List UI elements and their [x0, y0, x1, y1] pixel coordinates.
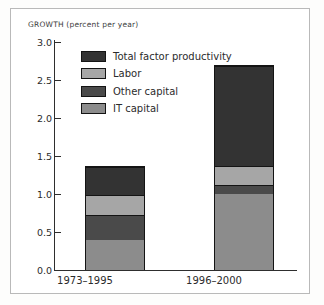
y-axis-tick-label: 1.0	[6, 189, 52, 200]
legend-swatch-icon	[81, 68, 106, 79]
bar-segment[interactable]	[215, 166, 273, 184]
legend-item-label: IT capital	[113, 103, 159, 114]
bar-segment[interactable]	[86, 240, 144, 270]
bar-segment[interactable]	[215, 185, 273, 195]
x-axis-label-category-0: 1973–1995	[25, 275, 145, 286]
x-axis-label-category-1: 1996–2000	[154, 275, 274, 286]
legend-swatch-icon	[81, 103, 106, 114]
y-axis-tick-label: 3.0	[6, 37, 52, 48]
y-axis-tick-label: 2.5	[6, 75, 52, 86]
legend: Total factor productivityLaborOther capi…	[81, 48, 261, 118]
bar-segment[interactable]	[86, 215, 144, 240]
y-axis-tick-label: 0.5	[6, 227, 52, 238]
legend-item[interactable]: Other capital	[81, 83, 261, 99]
y-axis-tick-label: 0.0	[6, 265, 52, 276]
legend-item-label: Labor	[113, 68, 141, 79]
bar-segment[interactable]	[215, 194, 273, 270]
legend-item-label: Other capital	[113, 86, 178, 97]
y-axis-tick-label: 2.0	[6, 113, 52, 124]
figure-container: GROWTH (percent per year) 0.00.51.01.52.…	[0, 0, 324, 305]
legend-item[interactable]: Total factor productivity	[81, 48, 261, 64]
legend-swatch-icon	[81, 86, 106, 97]
y-axis-tick-labels: 0.00.51.01.52.02.53.0	[0, 0, 52, 305]
legend-item[interactable]: Labor	[81, 66, 261, 82]
legend-item-label: Total factor productivity	[113, 51, 232, 62]
legend-item[interactable]: IT capital	[81, 101, 261, 117]
bar-segment[interactable]	[86, 167, 144, 195]
bar-segment[interactable]	[86, 195, 144, 215]
y-axis-tick-label: 1.5	[6, 151, 52, 162]
bar-stack-1973-1995[interactable]	[85, 166, 145, 270]
legend-swatch-icon	[81, 51, 106, 62]
